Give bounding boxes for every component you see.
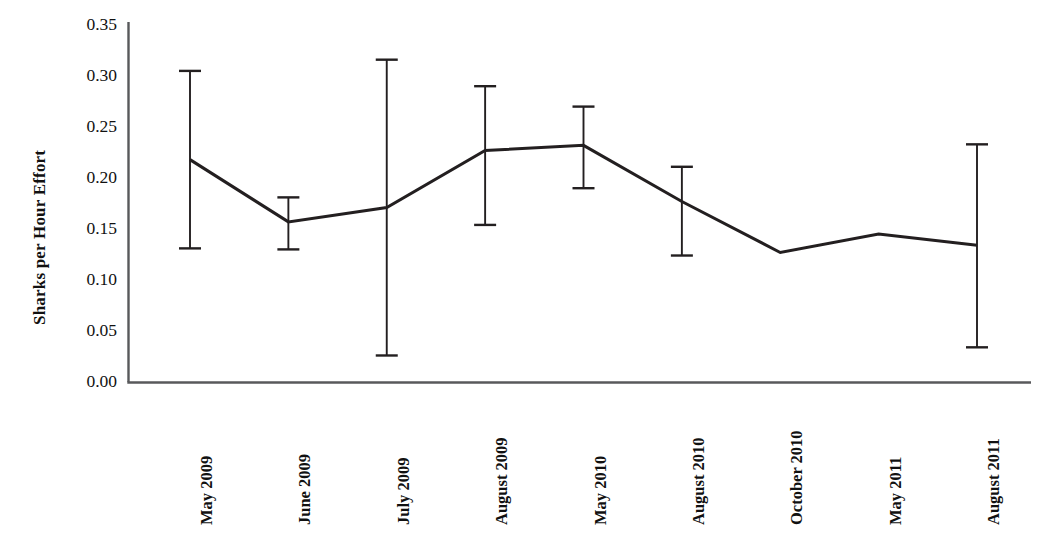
y-tick-label: 0.30 (55, 65, 117, 86)
y-tick-label: 0.25 (55, 116, 117, 137)
x-tick-label: June 2009 (295, 454, 315, 525)
x-tick-label: May 2010 (591, 456, 611, 525)
x-tick-label: July 2009 (394, 458, 414, 525)
y-tick-label: 0.15 (55, 218, 117, 239)
x-tick-label: May 2009 (197, 456, 217, 525)
x-tick-label: August 2011 (984, 438, 1004, 525)
error-bar (573, 107, 595, 189)
error-bar (277, 197, 299, 249)
x-tick-label: May 2011 (886, 457, 906, 525)
y-tick-label: 0.05 (55, 320, 117, 341)
error-bar (671, 167, 693, 256)
y-tick-label: 0.00 (55, 371, 117, 392)
y-tick-label: 0.35 (55, 14, 117, 35)
x-tick-label: August 2010 (689, 437, 709, 525)
error-bars (179, 60, 988, 356)
y-tick-label: 0.10 (55, 269, 117, 290)
axis-lines (127, 22, 1031, 383)
x-tick-label: October 2010 (787, 430, 807, 525)
y-tick-label: 0.20 (55, 167, 117, 188)
chart-container: Sharks per Hour Effort 0.000.050.100.150… (0, 0, 1058, 545)
x-tick-label: August 2009 (492, 437, 512, 525)
